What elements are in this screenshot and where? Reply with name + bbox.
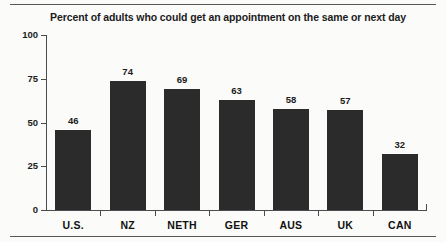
x-axis-line	[46, 210, 427, 211]
x-axis-tick	[209, 211, 210, 216]
x-axis-tick	[318, 211, 319, 216]
x-axis-tick	[373, 211, 374, 216]
x-axis-category-label: NETH	[152, 219, 212, 231]
y-axis-tick	[41, 35, 46, 36]
chart-title: Percent of adults who could get an appoi…	[33, 11, 423, 23]
y-axis-tick-label: 50	[8, 117, 38, 128]
y-axis-tick	[41, 166, 46, 167]
x-axis-category-label: UK	[315, 219, 375, 231]
y-axis-line	[46, 35, 47, 211]
bar-value-label: 69	[162, 74, 202, 85]
y-axis-tick-label: 100	[8, 29, 38, 40]
bar	[219, 100, 255, 210]
bar-value-label: 32	[380, 139, 420, 150]
bar-value-label: 57	[325, 95, 365, 106]
bar	[327, 110, 363, 210]
y-axis-tick	[41, 210, 46, 211]
y-axis-tick-label: 0	[8, 204, 38, 215]
bar-value-label: 63	[217, 85, 257, 96]
bar	[164, 89, 200, 210]
y-axis-tick	[41, 123, 46, 124]
x-axis-category-label: GER	[207, 219, 267, 231]
x-axis-category-label: CAN	[370, 219, 430, 231]
y-axis-tick-label: 25	[8, 160, 38, 171]
bar	[273, 109, 309, 211]
x-axis-tick	[100, 211, 101, 216]
bar	[55, 130, 91, 211]
y-axis-tick	[41, 79, 46, 80]
bar-chart-figure: Percent of adults who could get an appoi…	[0, 0, 446, 242]
bar-value-label: 46	[53, 115, 93, 126]
x-axis-tick	[264, 211, 265, 216]
bar	[110, 81, 146, 211]
x-axis-endcap	[426, 204, 427, 211]
top-divider-rule	[10, 4, 436, 5]
bar-value-label: 58	[271, 94, 311, 105]
y-axis-tick-label: 75	[8, 73, 38, 84]
bar-value-label: 74	[108, 66, 148, 77]
bottom-divider-rule	[10, 236, 436, 237]
bar	[382, 154, 418, 210]
x-axis-category-label: NZ	[98, 219, 158, 231]
x-axis-category-label: U.S.	[43, 219, 103, 231]
x-axis-category-label: AUS	[261, 219, 321, 231]
x-axis-tick	[155, 211, 156, 216]
